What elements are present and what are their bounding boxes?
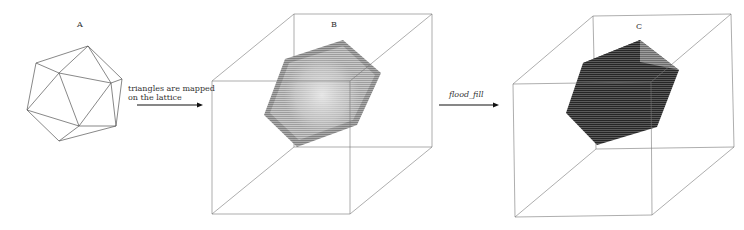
filled-solid: [566, 40, 679, 145]
pipeline-diagram: [0, 0, 744, 230]
step-a-b-caption: triangles are mapped on the lattice: [128, 84, 215, 102]
voxelized-surface: [264, 40, 381, 147]
icosahedron-mesh: [27, 46, 122, 141]
step-a-b-line1: triangles are mapped: [128, 84, 215, 93]
panel-label-a: A: [77, 20, 83, 29]
panel-label-c: C: [636, 22, 642, 31]
step-a-b-line2: on the lattice: [128, 93, 215, 102]
arrow-b-to-c: [439, 103, 499, 108]
panel-label-b: B: [331, 20, 337, 29]
arrow-a-to-b: [137, 103, 203, 108]
step-b-c-caption: flood_fill: [449, 90, 484, 99]
